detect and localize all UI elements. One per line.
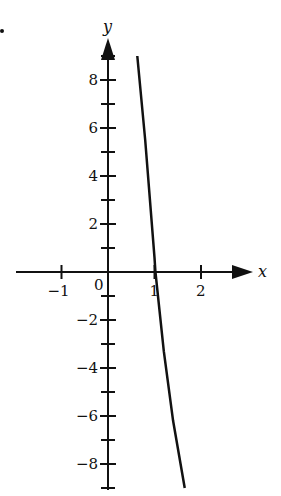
x-axis-arrow-icon xyxy=(232,265,253,279)
y-tick-label: 8 xyxy=(88,71,98,89)
y-tick-label: 6 xyxy=(88,119,98,137)
y-tick-label: −4 xyxy=(76,359,98,377)
y-tick-label: −8 xyxy=(76,455,98,473)
x-ticks: −1012 xyxy=(48,265,206,300)
y-tick-label: −2 xyxy=(76,311,98,329)
x-tick-label: 2 xyxy=(196,282,206,300)
x-axis-label: x xyxy=(258,262,267,281)
y-tick-label: 4 xyxy=(88,167,98,185)
x-tick-label: −1 xyxy=(48,282,70,300)
stray-dot xyxy=(0,29,4,33)
y-axis-label: y xyxy=(102,17,113,36)
y-tick-label: 2 xyxy=(88,215,98,233)
y-tick-label: −6 xyxy=(76,407,98,425)
x-tick-label: 0 xyxy=(94,276,104,294)
chart: x y −1012 8642−2−4−6−8 xyxy=(0,0,281,496)
